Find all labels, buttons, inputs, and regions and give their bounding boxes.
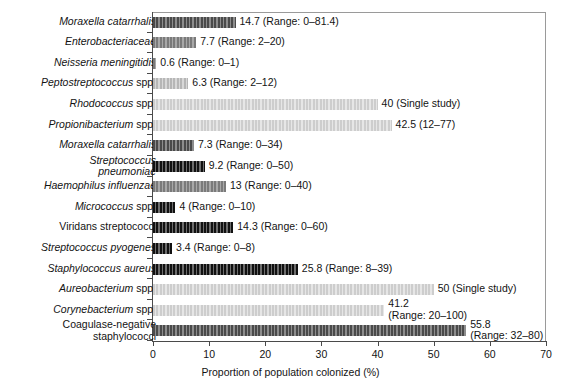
bar-value-line: (Range: 20–100) xyxy=(388,310,467,322)
category-label-text: Corynebacterium xyxy=(53,303,133,315)
x-axis-tick-label: 40 xyxy=(358,348,398,360)
x-axis-tick-label: 70 xyxy=(526,348,566,360)
category-tick xyxy=(147,299,152,300)
x-axis-tick xyxy=(546,342,547,346)
x-axis-tick xyxy=(265,342,266,346)
bar-value-label: 41.2(Range: 20–100) xyxy=(388,298,467,321)
category-tick xyxy=(147,134,152,135)
bar-value-label: 3.4 (Range: 0–8) xyxy=(176,242,255,254)
horizontal-bar-chart: Moraxella catarrhalis14.7 (Range: 0–81.4… xyxy=(0,0,581,388)
bar xyxy=(153,243,172,254)
x-axis-tick xyxy=(321,342,322,346)
bar xyxy=(153,325,466,336)
bar xyxy=(153,264,298,275)
bar-value-label: 42.5 (12–77) xyxy=(396,119,456,131)
category-label-text: Moraxella catarrhalis xyxy=(59,138,156,150)
bar-value-label: 7.3 (Range: 0–34) xyxy=(198,139,283,151)
bar-value-label: 40 (Single study) xyxy=(382,98,461,110)
category-label-line: Coagulase-negative xyxy=(63,319,156,331)
bar xyxy=(153,161,205,172)
category-label: Viridans streptococci xyxy=(59,221,156,233)
x-axis-tick-label: 30 xyxy=(301,348,341,360)
x-axis-label: Proportion of population colonized (%) xyxy=(0,366,581,378)
category-label-text: Peptostreptococcus xyxy=(41,76,133,88)
bar-value-label: 14.3 (Range: 0–60) xyxy=(237,221,327,233)
category-tick xyxy=(147,93,152,94)
category-label: Micrococcus spp. xyxy=(75,201,156,213)
category-label-text: Staphylococcus aureus xyxy=(47,262,156,274)
category-label-text: Moraxella catarrhalis xyxy=(59,15,156,27)
bar xyxy=(153,58,156,69)
x-axis-tick xyxy=(490,342,491,346)
bar-value-label: 4 (Range: 0–10) xyxy=(179,201,255,213)
bar-value-line: (Range: 32–80) xyxy=(470,330,543,342)
x-axis-tick-label: 10 xyxy=(189,348,229,360)
category-tick xyxy=(147,278,152,279)
category-label-text: Streptococcus pyogenes xyxy=(41,241,156,253)
bar xyxy=(153,120,392,131)
bar-value-label: 0.6 (Range: 0–1) xyxy=(160,57,239,69)
x-axis-tick-label: 50 xyxy=(414,348,454,360)
category-label-text: Rhodococcus xyxy=(70,97,134,109)
category-label: Neisseria meningitidis xyxy=(54,57,156,69)
category-label-text: Propionibacterium xyxy=(49,118,134,130)
bar xyxy=(153,140,194,151)
category-label: Moraxella catarrhalis xyxy=(59,16,156,28)
x-axis-tick xyxy=(209,342,210,346)
bar xyxy=(153,222,233,233)
x-axis-tick-label: 60 xyxy=(470,348,510,360)
category-label: Enterobacteriaceae xyxy=(65,36,156,48)
bar-value-label: 7.7 (Range: 2–20) xyxy=(200,36,285,48)
category-label: Rhodococcus spp. xyxy=(70,98,156,110)
category-tick xyxy=(147,196,152,197)
category-label-text: Viridans streptococci xyxy=(59,220,156,232)
category-label-text: Aureobacterium xyxy=(59,282,133,294)
x-axis-tick xyxy=(434,342,435,346)
category-label-text: Neisseria meningitidis xyxy=(54,56,156,68)
x-axis-tick-label: 20 xyxy=(245,348,285,360)
category-label: Haemophilus influenzae xyxy=(44,180,156,192)
x-axis-tick-label: 0 xyxy=(133,348,173,360)
category-tick xyxy=(147,217,152,218)
category-label: Streptococcuspneumoniae xyxy=(89,155,156,178)
category-label-text: Micrococcus xyxy=(75,200,133,212)
bar xyxy=(153,202,175,213)
category-tick xyxy=(147,73,152,74)
category-label-text: Haemophilus influenzae xyxy=(44,179,156,191)
x-axis-tick xyxy=(153,342,154,346)
bar-value-label: 13 (Range: 0–40) xyxy=(230,180,312,192)
bar-value-label: 9.2 (Range: 0–50) xyxy=(209,160,294,172)
bar xyxy=(153,284,434,295)
category-label: Aureobacterium spp. xyxy=(59,283,156,295)
category-label-line: staphylococci xyxy=(63,331,156,343)
category-tick xyxy=(147,258,152,259)
x-axis-tick xyxy=(378,342,379,346)
category-tick xyxy=(147,52,152,53)
category-label: Corynebacterium spp. xyxy=(53,304,156,316)
bar xyxy=(153,305,384,316)
category-label: Moraxella catarrhalis xyxy=(59,139,156,151)
bar xyxy=(153,17,236,28)
category-tick xyxy=(147,32,152,33)
category-label: Streptococcus pyogenes xyxy=(41,242,156,254)
category-label: Staphylococcus aureus xyxy=(47,263,156,275)
bar-value-label: 25.8 (Range: 8–39) xyxy=(302,263,392,275)
bar xyxy=(153,37,196,48)
category-label: Coagulase-negativestaphylococci xyxy=(63,319,156,342)
bar xyxy=(153,181,226,192)
category-label: Peptostreptococcus spp. xyxy=(41,77,156,89)
category-label: Propionibacterium spp. xyxy=(49,119,156,131)
category-label-text: Enterobacteriaceae xyxy=(65,35,156,47)
bar xyxy=(153,99,378,110)
bar-value-label: 50 (Single study) xyxy=(438,283,517,295)
bar-value-label: 55.8(Range: 32–80) xyxy=(470,319,543,342)
bar-value-label: 14.7 (Range: 0–81.4) xyxy=(240,16,339,28)
bar-value-line: 41.2 xyxy=(388,298,467,310)
category-tick xyxy=(147,237,152,238)
bar-value-label: 6.3 (Range: 2–12) xyxy=(192,77,277,89)
category-label-line: pneumoniae xyxy=(89,166,156,178)
bar xyxy=(153,78,188,89)
category-tick xyxy=(147,114,152,115)
